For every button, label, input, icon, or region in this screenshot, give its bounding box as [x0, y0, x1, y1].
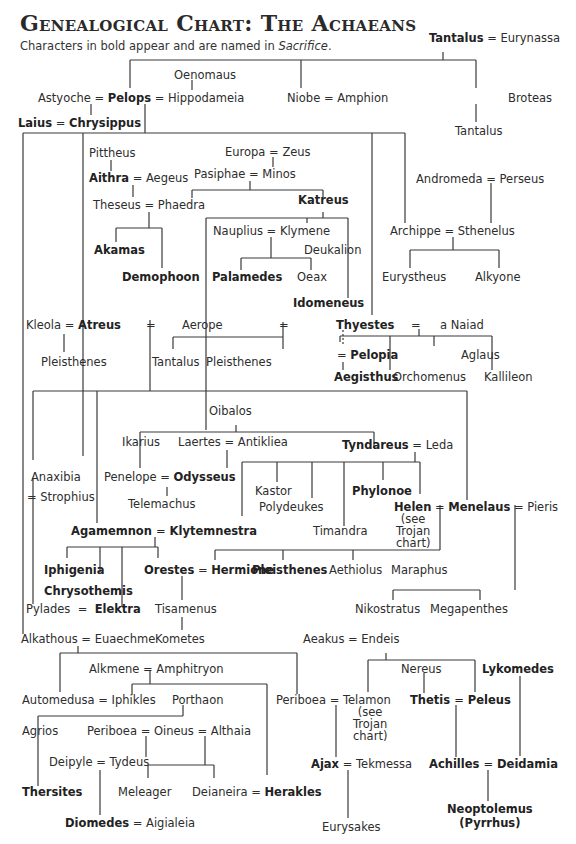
marriage-sign: =: [133, 816, 143, 830]
person-laius: Laius: [18, 116, 52, 130]
person-eurysakes: Eurysakes: [322, 820, 380, 834]
person-antikleia: Antikliea: [238, 435, 288, 449]
person-aithra-line: Aithra = Aegeus: [89, 171, 188, 185]
marriage-sign: =: [486, 172, 496, 186]
person-periboea-wife-of-telamon: Periboea: [276, 693, 326, 707]
person-pelopia: Pelopia: [350, 348, 398, 362]
person-kallileon: Kallileon: [484, 370, 533, 384]
person-herakles: Herakles: [264, 785, 321, 799]
person-nauplius: Nauplius: [213, 224, 263, 238]
person-neoptolemus-name: Neoptolemus: [447, 802, 533, 816]
person-amphion: Amphion: [337, 91, 388, 105]
person-chrysippus: Chrysippus: [69, 116, 141, 130]
marriage-sign: =: [330, 693, 340, 707]
person-deidamia: Deidamia: [497, 757, 558, 771]
person-akamas: Akamas: [94, 243, 145, 257]
person-archippe-line: Archippe = Sthenelus: [390, 224, 515, 238]
person-broteas: Broteas: [508, 91, 552, 105]
person-klymene: Klymene: [280, 224, 330, 238]
marriage-sign: =: [454, 693, 464, 707]
person-pittheus: Pittheus: [89, 146, 136, 160]
person-pleisthenes-son-of-helen: Pleisthenes: [252, 563, 327, 577]
person-phylonoe: Phylonoe: [352, 484, 412, 498]
person-pylades: Pylades: [26, 602, 70, 616]
person-laertes: Laertes: [178, 435, 221, 449]
person-eurynassa: Eurynassa: [501, 31, 560, 45]
person-oibalos: Oibalos: [209, 404, 252, 418]
person-peleus: Peleus: [468, 693, 511, 707]
person-aglaus: Aglaus: [461, 348, 500, 362]
marriage-sign: =: [269, 145, 279, 159]
person-laius-line: Laius = Chrysippus: [18, 116, 141, 130]
marriage-sign: =: [98, 693, 108, 707]
person-sthenelus: Sthenelus: [458, 224, 515, 238]
person-pelopia-line: = Pelopia: [337, 348, 398, 362]
person-aegisthus: Aegisthus: [334, 370, 398, 384]
person-thetis: Thetis: [410, 693, 450, 707]
person-polydeukes: Polydeukes: [259, 500, 324, 514]
person-neoptolemus: Neoptolemus(Pyrrhus): [447, 802, 533, 830]
person-menelaus: Menelaus: [448, 500, 510, 514]
person-achilles-line: Achilles = Deidamia: [429, 757, 558, 771]
person-odysseus: Odysseus: [174, 470, 236, 484]
person-iphigenia: Iphigenia: [44, 563, 105, 577]
person-alkmene: Alkmene: [89, 662, 139, 676]
person-alkyone: Alkyone: [475, 270, 521, 284]
person-tyndareus: Tyndareus: [342, 438, 409, 452]
note-see-trojan-chart-helen: (see Trojan chart): [396, 513, 430, 549]
marriage-sign: =: [141, 724, 151, 738]
person-timandra: Timandra: [313, 524, 367, 538]
marriage-sign: =: [144, 198, 154, 212]
person-elektra-line: Pylades = Elektra: [26, 602, 141, 616]
person-hippodameia: Hippodameia: [168, 91, 244, 105]
marriage-sign: =: [249, 167, 259, 181]
marriage-sign: =: [348, 632, 358, 646]
person-elektra: Elektra: [95, 602, 141, 616]
marriage-sign: =: [198, 563, 208, 577]
person-oineus: Oineus: [154, 724, 194, 738]
person-strophius: Strophius: [40, 490, 94, 504]
person-nikostratus: Nikostratus: [355, 602, 420, 616]
person-deianeira-line: Deianeira = Herakles: [192, 785, 322, 799]
person-ajax-line: Ajax = Tekmessa: [311, 757, 412, 771]
marriage-sign: =: [56, 116, 66, 130]
marriage-sign-thyestes-naiad: =: [411, 318, 421, 332]
person-chrysothemis: Chrysothemis: [44, 584, 133, 598]
person-aerope: Aerope: [182, 318, 223, 332]
person-oenomaus: Oenomaus: [174, 68, 236, 82]
marriage-sign: =: [435, 500, 445, 514]
person-pasiphae-line: Pasiphae = Minos: [194, 167, 296, 181]
person-penelope-line: Penelope = Odysseus: [104, 470, 236, 484]
person-tantalus: Tantalus: [429, 31, 484, 45]
marriage-sign: =: [96, 755, 106, 769]
person-eurystheus: Eurystheus: [382, 270, 446, 284]
person-deianeira: Deianeira: [192, 785, 248, 799]
person-niobe: Niobe: [287, 91, 320, 105]
person-aeakus-line: Aeakus = Endeis: [303, 632, 399, 646]
person-tekmessa: Tekmessa: [356, 757, 412, 771]
person-kastor: Kastor: [255, 484, 292, 498]
marriage-sign: =: [324, 91, 334, 105]
marriage-sign: =: [225, 435, 235, 449]
marriage-sign: =: [155, 91, 165, 105]
person-europa: Europa: [225, 145, 265, 159]
person-penelope: Penelope: [104, 470, 157, 484]
person-neoptolemus-alias: (Pyrrhus): [447, 816, 533, 830]
person-agamemnon-line: Agamemnon = Klytemnestra: [71, 524, 257, 538]
marriage-sign: =: [343, 757, 353, 771]
person-atreus-line: Kleola = Atreus: [26, 318, 121, 332]
person-meleager: Meleager: [118, 785, 171, 799]
person-perseus: Perseus: [500, 172, 545, 186]
marriage-sign: =: [514, 500, 524, 514]
person-euaechme: Euaechme: [95, 632, 156, 646]
person-aeakus: Aeakus: [303, 632, 344, 646]
person-minos: Minos: [262, 167, 295, 181]
person-archippe: Archippe: [390, 224, 441, 238]
person-pelops: Pelops: [108, 91, 151, 105]
marriage-sign: =: [65, 318, 75, 332]
person-oeax: Oeax: [297, 270, 327, 284]
person-andromeda: Andromeda: [416, 172, 483, 186]
marriage-sign: =: [160, 470, 170, 484]
marriage-sign: =: [487, 31, 497, 45]
marriage-sign: =: [133, 171, 143, 185]
